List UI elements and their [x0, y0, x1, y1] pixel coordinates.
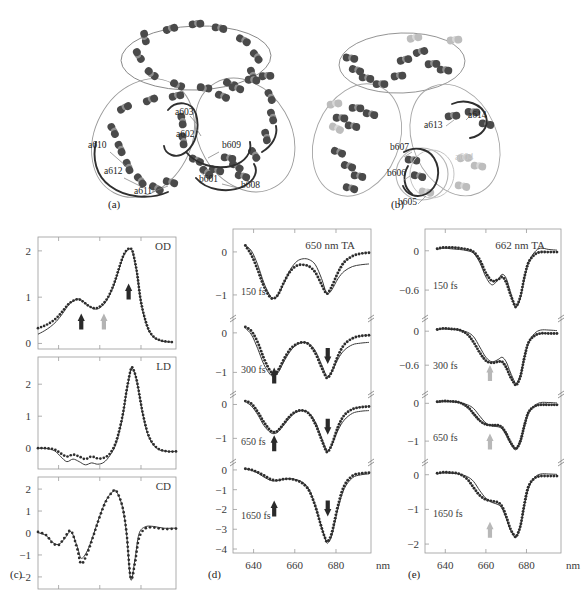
- y-tick-label: 0: [414, 245, 420, 257]
- curve-simulation: [245, 469, 369, 543]
- delay-label: 300 fs: [433, 360, 458, 371]
- panel-b-structure: a613a614b607b606b605a604: [296, 31, 517, 210]
- y-tick-label: 0: [414, 397, 420, 409]
- chromophore-pair: [328, 121, 346, 135]
- delay-label: 1650 fs: [433, 508, 463, 519]
- chromophore-pair: [116, 101, 134, 115]
- panel-tag-b: (b): [391, 198, 404, 210]
- structure-label-a604: a604: [455, 152, 474, 162]
- y-tick-label: −1: [407, 435, 419, 447]
- chromophore-pair: [263, 88, 277, 106]
- chromophore-pair: [344, 121, 361, 132]
- annotation-arrow-OD-0: [78, 314, 85, 330]
- subplot-LD: 012LD: [26, 357, 178, 469]
- y-tick-label: −1: [407, 503, 419, 515]
- annotation-arrow-300-fs-0: [486, 365, 493, 381]
- panel-title: 650 nm TA: [305, 239, 355, 251]
- y-tick-label: 0: [414, 469, 420, 481]
- structure-label-a612: a612: [104, 166, 123, 176]
- chromophore-pair: [260, 128, 272, 145]
- curve-simulation: [38, 490, 176, 580]
- delay-label: 300 fs: [241, 364, 266, 375]
- subplot-CD: −2−1012CD: [19, 477, 177, 589]
- chromophore-pair: [162, 176, 179, 188]
- chromophore-pair: [396, 54, 413, 66]
- panel-tag-d: (d): [208, 568, 221, 580]
- chromophore-pair: [211, 23, 228, 34]
- y-tick-label: 0: [222, 398, 228, 410]
- x-tick-label: 680: [328, 559, 345, 571]
- y-tick-label: −2: [407, 538, 419, 550]
- chromophore-pair: [244, 76, 260, 85]
- structure-label-b607: b607: [390, 142, 409, 152]
- chromophore-pair: [470, 161, 486, 171]
- chromophore-pair: [168, 90, 185, 101]
- y-tick-label: 1: [26, 291, 32, 303]
- annotation-arrow-OD-2: [125, 283, 132, 299]
- chromophore-pair: [342, 53, 359, 63]
- delay-label: 150 fs: [241, 286, 266, 297]
- chromophore-pair: [362, 109, 379, 120]
- structure-label-a613: a613: [424, 120, 443, 130]
- x-tick-label: 680: [518, 559, 535, 571]
- chromophore-pair: [248, 48, 264, 65]
- leader-line-a-7: [222, 184, 238, 188]
- curve-simulation: [38, 368, 176, 465]
- plot-frame: [38, 477, 176, 589]
- chromophore-pair: [214, 90, 231, 103]
- annotation-arrow-650-fs-0: [486, 433, 493, 449]
- chromophore-pair: [410, 171, 427, 182]
- structure-label-b609: b609: [222, 140, 241, 150]
- chromophore-pair: [220, 153, 237, 164]
- y-tick-label: 1: [26, 410, 32, 422]
- chromophore-pair: [390, 71, 407, 81]
- y-tick-label: 0: [26, 337, 32, 349]
- chromophore-pair: [196, 83, 213, 93]
- annotation-arrow-1650-fs-0: [486, 522, 493, 538]
- ta-trace-1650-fs: 0−1−2−3−41650 fs: [215, 464, 370, 555]
- chromophore-pair: [131, 47, 146, 64]
- annotation-arrow-1650-fs-0: [271, 500, 278, 516]
- curve-simulation: [437, 329, 557, 384]
- chromophore-pair: [142, 93, 159, 106]
- curve-simulation: [437, 473, 557, 538]
- delay-label: 1650 fs: [241, 510, 271, 521]
- chromophore-pair: [266, 108, 278, 125]
- y-tick-label: −1: [19, 549, 31, 561]
- plot-frame: [233, 229, 371, 553]
- chromophore-pair: [330, 146, 347, 159]
- annotation-arrow-OD-1: [100, 314, 107, 330]
- subplot-label-LD: LD: [156, 360, 171, 372]
- chromophore-pair: [350, 171, 367, 182]
- y-tick-label: 0: [222, 464, 228, 476]
- y-tick-label: 0: [222, 246, 228, 258]
- chromophore-pair: [162, 23, 179, 35]
- structure-label-a603: a603: [175, 107, 194, 117]
- annotation-arrow-1650-fs-1: [324, 501, 331, 517]
- curve-experiment-dots: [436, 327, 559, 386]
- delay-label: 650 fs: [433, 432, 458, 443]
- structure-panels: a603a602a610a612a611b609b601b608a613a614…: [0, 0, 586, 215]
- x-axis-unit: nm: [376, 559, 391, 571]
- annotation-arrow-650-fs-1: [324, 419, 331, 435]
- panel-tag-c: (c): [10, 568, 22, 580]
- structure-label-b601: b601: [199, 174, 218, 184]
- chromophore-pair: [258, 72, 274, 81]
- y-tick-label: 2: [26, 483, 32, 495]
- ta-trace-650-fs: 0−1650 fs: [215, 398, 374, 466]
- x-axis-unit: nm: [566, 559, 581, 571]
- panel-a-structure: a603a602a610a612a611b609b601b608: [72, 19, 315, 215]
- delay-label: 650 fs: [241, 436, 266, 447]
- chromophore-pair: [235, 33, 253, 47]
- ta-trace-150-fs: 0−0.6150 fs: [399, 245, 564, 322]
- y-tick-label: −1: [215, 432, 227, 444]
- y-tick-label: 2: [26, 378, 32, 390]
- chromophore-pair: [412, 46, 429, 58]
- y-tick-label: 2: [26, 245, 32, 257]
- chromophore-pair: [446, 35, 463, 45]
- x-tick-label: 640: [245, 559, 262, 571]
- leader-line-a-5: [208, 152, 219, 158]
- y-tick-label: 0: [222, 327, 228, 339]
- chromophore-pair: [349, 104, 365, 113]
- ta-trace-650-fs: 0−1650 fs: [407, 397, 564, 466]
